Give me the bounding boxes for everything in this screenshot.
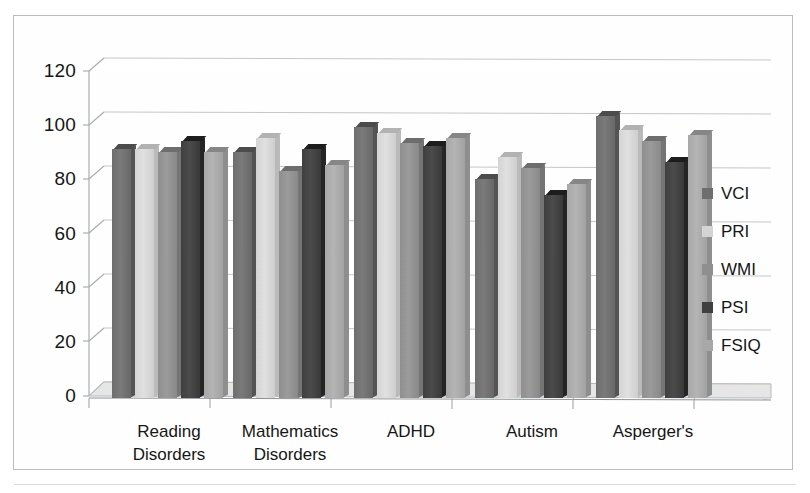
bar-front-face (135, 149, 154, 398)
legend-item-fsiq[interactable]: FSIQ (702, 326, 786, 364)
bar-psi-5[interactable] (665, 162, 684, 398)
legend-item-psi[interactable]: PSI (702, 288, 786, 326)
bars-layer (14, 16, 794, 471)
page-bottom-rule (14, 484, 796, 485)
bar-top-face (477, 174, 501, 179)
legend: VCIPRIWMIPSIFSIQ (702, 174, 786, 364)
bar-front-face (112, 149, 131, 398)
bar-side-face (344, 162, 349, 397)
bar-front-face (325, 165, 344, 398)
bar-group-mathematics-disorders (233, 73, 348, 398)
plot-area: 020406080100120 ReadingDisordersMathemat… (14, 16, 794, 471)
bar-group-reading-disorders (112, 73, 227, 398)
bar-pri-3[interactable] (377, 133, 396, 398)
bar-group-adhd (354, 73, 469, 398)
bar-group-asperger-s (596, 73, 711, 398)
bar-front-face (354, 127, 373, 398)
bar-top-face (281, 166, 305, 171)
bar-front-face (302, 149, 321, 398)
bar-wmi-2[interactable] (279, 171, 298, 399)
bar-vci-2[interactable] (233, 152, 252, 398)
bar-vci-3[interactable] (354, 127, 373, 398)
bar-top-face (206, 147, 230, 152)
bar-wmi-4[interactable] (521, 168, 540, 398)
bar-pri-5[interactable] (619, 130, 638, 398)
bar-front-face (446, 138, 465, 398)
bar-side-face (223, 148, 228, 397)
bar-psi-3[interactable] (423, 146, 442, 398)
bar-front-face (567, 184, 586, 398)
legend-swatch-icon (702, 302, 713, 313)
bar-front-face (233, 152, 252, 398)
bar-front-face (158, 152, 177, 398)
x-axis-label-line: Disorders (215, 443, 365, 466)
bar-pri-1[interactable] (135, 149, 154, 398)
bar-pri-2[interactable] (256, 138, 275, 398)
bar-psi-1[interactable] (181, 141, 200, 398)
bar-front-face (279, 171, 298, 399)
bar-psi-2[interactable] (302, 149, 321, 398)
bar-front-face (256, 138, 275, 398)
bar-front-face (475, 179, 494, 398)
bar-front-face (400, 143, 419, 398)
legend-item-wmi[interactable]: WMI (702, 250, 786, 288)
bar-fsiq-2[interactable] (325, 165, 344, 398)
x-axis-label-asperger-s: Asperger's (578, 420, 728, 443)
bar-front-face (377, 133, 396, 398)
bar-front-face (521, 168, 540, 398)
bar-fsiq-3[interactable] (446, 138, 465, 398)
bar-front-face (423, 146, 442, 398)
legend-item-pri[interactable]: PRI (702, 212, 786, 250)
bar-front-face (596, 116, 615, 398)
bar-top-face (379, 128, 403, 133)
bar-front-face (544, 195, 563, 398)
legend-label: PSI (721, 299, 748, 316)
bar-fsiq-4[interactable] (567, 184, 586, 398)
bar-vci-5[interactable] (596, 116, 615, 398)
bar-top-face (235, 147, 259, 152)
bar-wmi-5[interactable] (642, 141, 661, 398)
bar-front-face (498, 157, 517, 398)
bar-front-face (665, 162, 684, 398)
chart-frame: 020406080100120 ReadingDisordersMathemat… (13, 15, 793, 470)
bar-front-face (619, 130, 638, 398)
x-axis-category-labels: ReadingDisordersMathematicsDisordersADHD… (14, 408, 794, 470)
legend-swatch-icon (702, 188, 713, 199)
bar-front-face (181, 141, 200, 398)
bar-wmi-1[interactable] (158, 152, 177, 398)
legend-swatch-icon (702, 264, 713, 275)
legend-label: VCI (721, 185, 749, 202)
bar-group-autism (475, 73, 590, 398)
bar-fsiq-1[interactable] (204, 152, 223, 398)
legend-swatch-icon (702, 340, 713, 351)
bar-side-face (586, 181, 591, 397)
bar-front-face (204, 152, 223, 398)
x-axis-label-line: Asperger's (578, 420, 728, 443)
bar-top-face (160, 147, 184, 152)
legend-swatch-icon (702, 226, 713, 237)
bar-psi-4[interactable] (544, 195, 563, 398)
bar-vci-4[interactable] (475, 179, 494, 398)
bar-wmi-3[interactable] (400, 143, 419, 398)
bar-vci-1[interactable] (112, 149, 131, 398)
legend-item-vci[interactable]: VCI (702, 174, 786, 212)
bar-side-face (465, 135, 470, 397)
legend-label: FSIQ (721, 337, 761, 354)
bar-pri-4[interactable] (498, 157, 517, 398)
legend-label: PRI (721, 223, 749, 240)
bar-front-face (642, 141, 661, 398)
legend-label: WMI (721, 261, 756, 278)
